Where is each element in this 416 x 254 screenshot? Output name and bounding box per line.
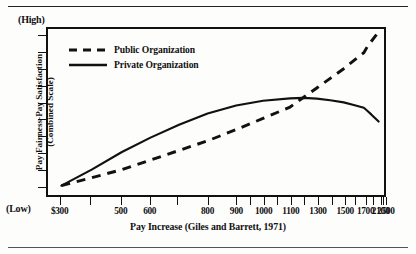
top-rule: [8, 6, 408, 7]
x-axis-tick: [386, 197, 387, 205]
legend-label-private: Private Organization: [114, 57, 199, 72]
y-axis-tick: [38, 103, 46, 104]
x-axis-tick-label: 800: [201, 206, 214, 216]
x-axis-tick: [318, 197, 319, 205]
x-axis-tick: [236, 197, 237, 205]
y-axis-tick: [38, 187, 46, 188]
y-axis-tick: [38, 86, 46, 87]
x-axis-tick-label: 1500: [336, 206, 353, 216]
legend-solid-swatch-icon: [68, 60, 108, 70]
figure-container: (High) (Low) Pay Fairness-Pay Satisfacti…: [0, 0, 416, 254]
y-axis-tick: [38, 35, 46, 36]
x-axis-tick: [177, 197, 178, 205]
x-axis-tick: [304, 197, 305, 205]
y-axis-tick: [38, 170, 46, 171]
y-axis-tick: [38, 69, 46, 70]
x-axis-title: Pay Increase (Giles and Barrett, 1971): [0, 221, 416, 232]
x-axis-tick: [121, 197, 122, 205]
x-axis-tick: [150, 197, 151, 205]
x-axis-tick: [291, 197, 292, 205]
x-axis-tick: [332, 197, 333, 205]
x-axis-tick-label: 600: [143, 206, 156, 216]
x-axis-tick-label: $300: [51, 206, 68, 216]
x-axis-tick: [60, 197, 61, 205]
y-axis-tick: [38, 136, 46, 137]
y-axis-tick: [38, 52, 46, 53]
legend: Public Organization Private Organization: [68, 42, 199, 72]
y-axis-title-wrap: Pay Fairness-Pay Satisfaction (Combined …: [8, 28, 38, 198]
x-axis-tick: [383, 197, 384, 205]
x-axis-tick-labels: $300500600800900100011001300150017002100…: [0, 206, 416, 220]
x-axis-tick-label: 1300: [309, 206, 326, 216]
x-axis-tick-label: 1000: [255, 206, 272, 216]
x-axis-tick: [277, 197, 278, 205]
legend-item-public: Public Organization: [68, 42, 199, 57]
legend-label-public: Public Organization: [114, 42, 195, 57]
x-axis-tick: [366, 197, 367, 205]
x-axis-tick: [264, 197, 265, 205]
y-axis-tick: [38, 153, 46, 154]
x-axis-tick: [373, 197, 374, 205]
x-axis-tick: [90, 197, 91, 205]
x-axis-tick-label: 900: [230, 206, 243, 216]
x-axis-ticks: [46, 197, 386, 206]
x-axis-tick: [381, 197, 382, 205]
x-axis-tick-label: 1100: [282, 206, 299, 216]
x-axis-tick-label: 2500: [377, 206, 394, 216]
x-axis-tick: [355, 197, 356, 205]
y-axis-tick: [38, 119, 46, 120]
x-axis-tick: [345, 197, 346, 205]
bottom-rule: [8, 247, 408, 248]
x-axis-tick-label: 500: [114, 206, 127, 216]
y-axis-high-marker: (High): [18, 14, 45, 25]
legend-dashed-swatch-icon: [68, 45, 108, 55]
x-axis-tick: [250, 197, 251, 205]
legend-item-private: Private Organization: [68, 57, 199, 72]
x-axis-tick: [208, 197, 209, 205]
